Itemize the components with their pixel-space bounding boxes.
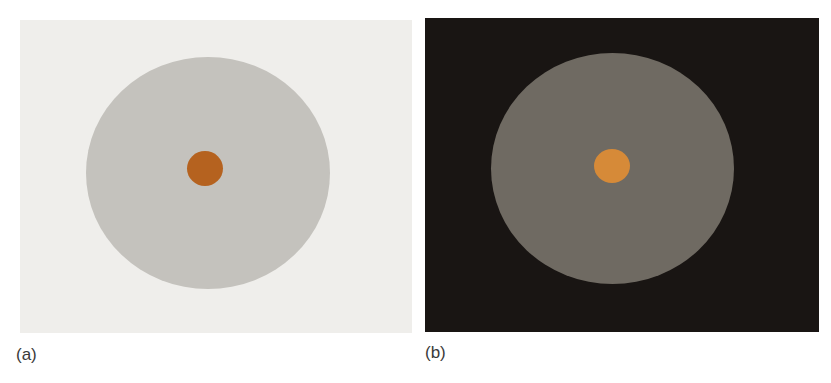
panel-label-b: (b) [425, 343, 446, 363]
panel-b [425, 18, 819, 332]
orange-center-dot-b [594, 149, 630, 183]
panel-label-a: (a) [16, 345, 37, 365]
orange-center-dot-a [187, 151, 223, 186]
panel-a [20, 20, 412, 333]
